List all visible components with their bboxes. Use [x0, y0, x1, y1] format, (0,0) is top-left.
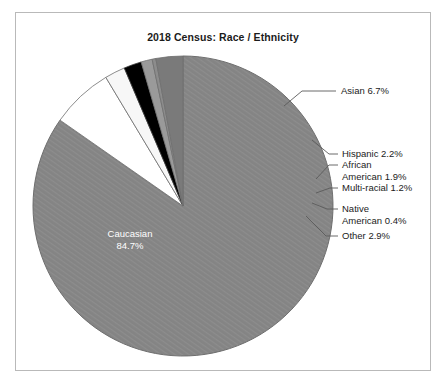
callout-hispanic-line1: Hispanic 2.2% [342, 148, 403, 160]
callout-native-american-line1: Native [342, 203, 406, 215]
callout-multi-racial: Multi-racial 1.2% [342, 182, 412, 194]
screenshot-root: 2018 Census: Race / Ethnicity [0, 0, 446, 385]
callout-native-american-line2: American 0.4% [342, 215, 406, 227]
callout-multi-racial-line1: Multi-racial 1.2% [342, 182, 412, 194]
pie-chart: Caucasian 84.7% Asian 6.7% Hispanic 2.2%… [16, 13, 432, 372]
callout-asian: Asian 6.7% [341, 85, 389, 97]
callout-native-american: Native American 0.4% [342, 203, 406, 226]
callout-african-american-line1: African [342, 159, 406, 171]
callout-other-line1: Other 2.9% [342, 230, 390, 242]
callout-hispanic: Hispanic 2.2% [342, 148, 403, 160]
callout-african-american: African American 1.9% [342, 159, 406, 182]
callout-other: Other 2.9% [342, 230, 390, 242]
chart-panel: 2018 Census: Race / Ethnicity [15, 12, 431, 371]
callout-asian-line1: Asian 6.7% [341, 85, 389, 97]
callout-african-american-line2: American 1.9% [342, 171, 406, 183]
